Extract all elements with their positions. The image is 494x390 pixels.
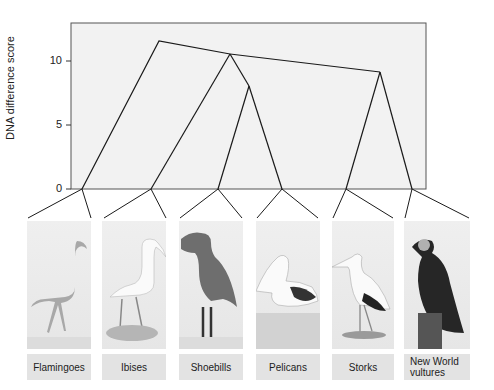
leaf-connectors <box>28 189 469 218</box>
y-tick-label-10: 10 <box>40 54 62 66</box>
panel-label: Flamingoes <box>27 354 91 380</box>
flamingo-icon <box>27 221 91 349</box>
shoebill-image <box>179 221 243 349</box>
shoebill-icon <box>179 221 243 349</box>
ibis-image <box>102 221 166 349</box>
pelican-icon <box>256 221 320 349</box>
y-tick-label-0: 0 <box>40 182 62 194</box>
vulture-icon <box>404 221 470 349</box>
stork-icon <box>332 221 394 349</box>
ibis-icon <box>102 221 166 349</box>
panel-label: Ibises <box>102 354 166 380</box>
vulture-image <box>404 221 470 349</box>
stork-image <box>332 221 394 349</box>
panel-label: Storks <box>332 354 394 380</box>
y-tick-label-5: 5 <box>40 118 62 130</box>
plot-area <box>71 23 426 189</box>
y-axis-label: DNA difference score <box>4 18 18 158</box>
panel-label: New World vultures <box>404 354 470 380</box>
panel-label: Shoebills <box>179 354 243 380</box>
flamingo-image <box>27 221 91 349</box>
panel-label: Pelicans <box>256 354 320 380</box>
pelican-image <box>256 221 320 349</box>
